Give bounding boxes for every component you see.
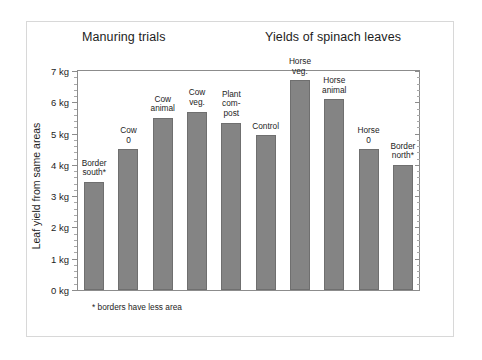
y-tick-major xyxy=(72,259,77,260)
y-tick-major xyxy=(72,134,77,135)
y-tick-minor xyxy=(74,284,77,285)
y-tick-major xyxy=(72,71,77,72)
y-axis-tick-label: 6 kg xyxy=(51,97,69,108)
y-axis-tick-label: 0 kg xyxy=(51,285,69,296)
figure-root: Manuring trials Yields of spinach leaves… xyxy=(0,0,482,360)
y-tick-minor-right xyxy=(417,277,420,278)
y-tick-minor xyxy=(74,140,77,141)
y-tick-major xyxy=(72,196,77,197)
y-tick-minor xyxy=(74,265,77,266)
chart-title-right: Yields of spinach leaves xyxy=(265,30,401,44)
y-tick-minor xyxy=(74,190,77,191)
y-tick-major xyxy=(72,227,77,228)
plot-border-top xyxy=(77,70,420,71)
y-tick-minor xyxy=(74,96,77,97)
y-tick-minor-right xyxy=(417,209,420,210)
y-tick-minor xyxy=(74,77,77,78)
y-tick-major-right xyxy=(415,227,420,228)
y-axis-tick-label: 4 kg xyxy=(51,159,69,170)
y-tick-minor-right xyxy=(417,284,420,285)
bar-label: Horse veg. xyxy=(280,57,320,76)
y-tick-minor xyxy=(74,252,77,253)
y-tick-minor xyxy=(74,215,77,216)
bar-label: Control xyxy=(246,122,286,132)
y-tick-minor xyxy=(74,146,77,147)
y-tick-minor-right xyxy=(417,171,420,172)
bar xyxy=(187,112,207,290)
y-tick-major-right xyxy=(415,102,420,103)
y-tick-minor-right xyxy=(417,109,420,110)
y-tick-major-right xyxy=(415,290,420,291)
y-tick-major-right xyxy=(415,259,420,260)
y-axis-tick-label: 1 kg xyxy=(51,253,69,264)
y-tick-minor-right xyxy=(417,96,420,97)
y-tick-minor xyxy=(74,127,77,128)
y-tick-minor-right xyxy=(417,234,420,235)
plot-axis-bottom xyxy=(77,290,420,291)
y-tick-major-right xyxy=(415,71,420,72)
bar-label: Horse animal xyxy=(314,76,354,95)
y-tick-major xyxy=(72,290,77,291)
y-tick-minor xyxy=(74,240,77,241)
y-tick-minor-right xyxy=(417,84,420,85)
bar xyxy=(256,135,276,290)
bar-label: Border north* xyxy=(383,142,423,161)
y-tick-minor-right xyxy=(417,115,420,116)
y-axis-tick-label: 2 kg xyxy=(51,222,69,233)
y-tick-minor-right xyxy=(417,184,420,185)
y-tick-minor-right xyxy=(417,127,420,128)
y-tick-minor xyxy=(74,115,77,116)
bar xyxy=(359,149,379,290)
y-tick-minor-right xyxy=(417,77,420,78)
y-tick-minor xyxy=(74,271,77,272)
y-axis-tick-label: 5 kg xyxy=(51,128,69,139)
y-tick-major-right xyxy=(415,165,420,166)
bar-label: Border south* xyxy=(74,159,114,178)
plot-axis-left xyxy=(77,70,78,291)
y-tick-minor xyxy=(74,202,77,203)
y-tick-minor-right xyxy=(417,221,420,222)
y-tick-minor-right xyxy=(417,90,420,91)
y-axis-tick-label: 7 kg xyxy=(51,66,69,77)
y-tick-minor-right xyxy=(417,215,420,216)
y-tick-minor xyxy=(74,209,77,210)
y-tick-minor-right xyxy=(417,271,420,272)
y-tick-minor-right xyxy=(417,202,420,203)
bar xyxy=(84,182,104,290)
y-tick-minor xyxy=(74,109,77,110)
y-tick-minor xyxy=(74,152,77,153)
y-tick-minor-right xyxy=(417,240,420,241)
y-tick-major xyxy=(72,102,77,103)
bar-label: Cow 0 xyxy=(108,126,148,145)
y-tick-minor-right xyxy=(417,265,420,266)
y-tick-minor xyxy=(74,121,77,122)
y-axis-tick-label: 3 kg xyxy=(51,191,69,202)
bar xyxy=(221,123,241,290)
bar xyxy=(324,99,344,290)
bar xyxy=(290,80,310,290)
chart-title-left: Manuring trials xyxy=(82,30,165,44)
y-tick-minor xyxy=(74,184,77,185)
y-tick-minor-right xyxy=(417,177,420,178)
bar-label: Plant com- post xyxy=(211,90,251,119)
y-axis-title: Leaf yield from same areas xyxy=(30,86,42,286)
plot-area: 0 kg1 kg2 kg3 kg4 kg5 kg6 kg7 kg Border … xyxy=(77,70,420,291)
y-tick-minor xyxy=(74,246,77,247)
y-tick-minor xyxy=(74,277,77,278)
y-tick-minor-right xyxy=(417,121,420,122)
bar xyxy=(153,118,173,290)
y-tick-minor xyxy=(74,234,77,235)
y-tick-major-right xyxy=(415,196,420,197)
y-tick-minor-right xyxy=(417,252,420,253)
y-tick-minor-right xyxy=(417,190,420,191)
y-tick-major-right xyxy=(415,134,420,135)
y-tick-minor xyxy=(74,221,77,222)
bar xyxy=(118,149,138,290)
y-tick-minor-right xyxy=(417,246,420,247)
bar xyxy=(393,165,413,290)
footnote: * borders have less area xyxy=(92,302,182,312)
y-tick-minor xyxy=(74,90,77,91)
y-tick-minor xyxy=(74,84,77,85)
